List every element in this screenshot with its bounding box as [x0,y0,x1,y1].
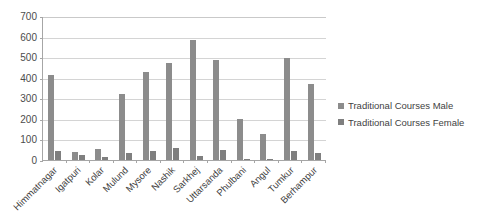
bar-group [67,17,91,160]
bar-male[interactable] [166,63,172,160]
legend-label: Traditional Courses Female [348,118,464,128]
bar-group [279,17,303,160]
bar-male[interactable] [284,58,290,160]
x-axis-label-cell: Berhampur [302,161,326,219]
bar-group [302,17,326,160]
bar-group [208,17,232,160]
bar-group [184,17,208,160]
bar-male[interactable] [95,149,101,160]
bar-female[interactable] [150,151,156,160]
bar-female[interactable] [291,151,297,160]
bar-female[interactable] [220,150,226,160]
legend-swatch-icon [338,103,344,109]
legend-item[interactable]: Traditional Courses Female [338,118,464,128]
legend-swatch-icon [338,119,344,125]
bar-female[interactable] [55,151,61,160]
bar-female[interactable] [79,155,85,160]
bar-female[interactable] [267,159,273,160]
bar-female[interactable] [126,153,132,160]
legend-item[interactable]: Traditional Courses Male [338,101,464,111]
bar-male[interactable] [190,40,196,160]
bar-male[interactable] [260,134,266,160]
plot-area: 7006005004003002001000 [42,17,326,161]
bar-male[interactable] [213,60,219,160]
bar-group [255,17,279,160]
bar-male[interactable] [119,94,125,160]
bar-group [137,17,161,160]
legend-label: Traditional Courses Male [348,101,453,111]
bar-male[interactable] [48,75,54,160]
bar-male[interactable] [237,119,243,160]
bar-female[interactable] [102,157,108,160]
bar-group [232,17,256,160]
x-axis-labels: HimmatnagarIgatpuriKolarMulundMysoreNash… [42,161,326,219]
chart-legend: Traditional Courses MaleTraditional Cour… [338,101,464,127]
bar-group [90,17,114,160]
bar-male[interactable] [72,152,78,160]
bar-group [161,17,185,160]
x-axis-label-cell: Phulbani [231,161,255,219]
bar-female[interactable] [244,159,250,160]
bar-chart: 7006005004003002001000 HimmatnagarIgatpu… [0,0,483,220]
bar-male[interactable] [143,72,149,160]
bar-female[interactable] [173,148,179,160]
bars-layer [43,17,326,160]
bar-male[interactable] [308,84,314,160]
bar-female[interactable] [315,153,321,160]
bar-group [43,17,67,160]
bar-female[interactable] [197,156,203,160]
x-axis-label-cell: Igatpuri [66,161,90,219]
x-axis-tick-label: Himmatnagar [12,165,59,212]
bar-group [114,17,138,160]
